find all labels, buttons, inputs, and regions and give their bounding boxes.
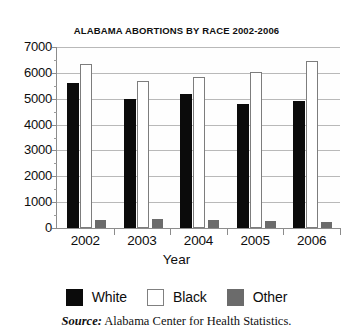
bar-other-2006 xyxy=(321,222,332,228)
legend-item-other: Other xyxy=(227,289,288,306)
y-tick-label: 7000 xyxy=(6,39,52,54)
y-tick-label: 4000 xyxy=(6,117,52,132)
y-axis-labels: 70006000500040003000200010000 xyxy=(0,47,52,228)
bar-group xyxy=(227,47,284,228)
legend-label: Other xyxy=(253,289,288,305)
bar-black-2003 xyxy=(137,81,149,228)
bar-black-2006 xyxy=(306,61,318,228)
x-tick xyxy=(340,228,341,235)
source-text: Alabama Center for Health Statistics. xyxy=(104,314,291,328)
solid-grey-swatch xyxy=(227,289,244,306)
source-note: Source: Alabama Center for Health Statis… xyxy=(0,314,353,329)
bar-group xyxy=(57,47,114,228)
bar-other-2003 xyxy=(152,219,163,228)
y-tick-label: 1000 xyxy=(6,194,52,209)
y-tick-label: 2000 xyxy=(6,168,52,183)
x-axis-line xyxy=(56,228,340,229)
bar-white-2004 xyxy=(180,94,192,228)
x-tick-label-2005: 2005 xyxy=(227,233,284,248)
bar-white-2006 xyxy=(293,101,305,228)
plot-area xyxy=(57,47,340,228)
legend-item-black: Black xyxy=(147,289,207,306)
bar-white-2002 xyxy=(67,83,79,228)
y-tick-label: 6000 xyxy=(6,65,52,80)
bar-black-2004 xyxy=(193,77,205,228)
bar-group xyxy=(170,47,227,228)
bar-black-2002 xyxy=(80,64,92,228)
hollow-white-swatch xyxy=(147,289,164,306)
chart-legend: WhiteBlackOther xyxy=(0,284,353,310)
x-tick-label-2003: 2003 xyxy=(114,233,171,248)
bar-group xyxy=(114,47,171,228)
x-tick-label-2006: 2006 xyxy=(283,233,340,248)
x-axis-title: Year xyxy=(0,252,353,267)
x-tick-label-2002: 2002 xyxy=(57,233,114,248)
y-tick-label: 3000 xyxy=(6,142,52,157)
bar-white-2005 xyxy=(237,104,249,228)
x-tick-label-2004: 2004 xyxy=(170,233,227,248)
legend-label: White xyxy=(92,289,127,305)
solid-black-swatch xyxy=(66,289,83,306)
bar-white-2003 xyxy=(124,99,136,228)
chart-title: ALABAMA ABORTIONS BY RACE 2002-2006 xyxy=(0,25,353,36)
bar-other-2004 xyxy=(208,220,219,228)
y-tick-label: 5000 xyxy=(6,91,52,106)
y-tick-major xyxy=(52,228,57,229)
legend-label: Black xyxy=(173,289,207,305)
x-axis-labels: 20022003200420052006 xyxy=(57,233,340,253)
bar-group xyxy=(283,47,340,228)
chart-figure: ALABAMA ABORTIONS BY RACE 2002-2006 7000… xyxy=(0,0,353,335)
bar-other-2002 xyxy=(95,220,106,228)
source-prefix: Source: xyxy=(62,314,102,328)
y-tick-label: 0 xyxy=(6,220,52,235)
bar-other-2005 xyxy=(265,221,276,228)
bar-black-2005 xyxy=(250,72,262,228)
legend-item-white: White xyxy=(66,289,127,306)
